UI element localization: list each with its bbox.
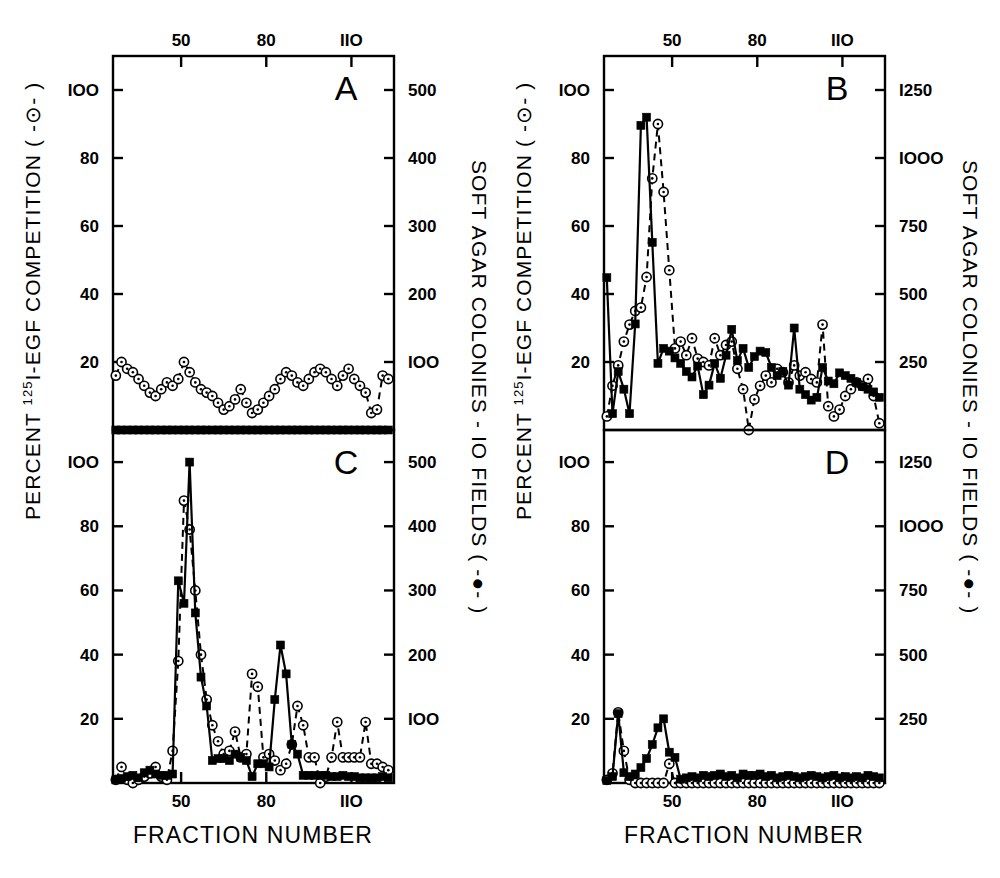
marker-filled-square bbox=[169, 770, 177, 778]
marker-filled-square bbox=[271, 696, 279, 704]
series-line-c-colonies bbox=[116, 462, 389, 780]
marker-filled-square bbox=[609, 410, 617, 418]
marker-open-circle-center bbox=[251, 673, 254, 676]
marker-open-circle-center bbox=[279, 378, 282, 381]
marker-open-circle-center bbox=[120, 361, 123, 364]
marker-open-circle-center bbox=[364, 721, 367, 724]
marker-filled-square bbox=[677, 359, 685, 367]
x-ticklabel-b-80: 80 bbox=[748, 31, 767, 50]
marker-open-circle-center bbox=[668, 269, 671, 272]
marker-open-circle-center bbox=[228, 405, 231, 408]
x-ticklabel-d-50: 50 bbox=[663, 792, 682, 811]
marker-open-circle-center bbox=[753, 398, 756, 401]
marker-open-circle-center bbox=[353, 378, 356, 381]
panel-d: 20406080IOO250500750IOOOI2505080IIOD bbox=[559, 430, 944, 811]
panel-letter-a: A bbox=[335, 69, 358, 107]
marker-open-circle-center bbox=[713, 337, 716, 340]
left-ticklabel-d-60: 60 bbox=[571, 581, 590, 600]
marker-open-circle-center bbox=[330, 756, 333, 759]
series-markers-c-colonies bbox=[112, 458, 392, 784]
marker-open-circle-center bbox=[719, 354, 722, 357]
marker-open-circle-center bbox=[793, 364, 796, 367]
bd-right-axis-title-group: SOFT AGAR COLONIES - IO FIELDS ( -●- ) bbox=[959, 160, 982, 614]
bd-left-axis-title-group: PERCENT 125I-EGF COMPETITION ( -⊙- ) bbox=[511, 82, 535, 520]
marker-open-circle-center bbox=[120, 766, 123, 769]
x-ticklabel-d-110: IIO bbox=[831, 792, 854, 811]
left-axis-title-prefix: PERCENT bbox=[21, 405, 44, 520]
left-ticklabel-d-20: 20 bbox=[571, 710, 590, 729]
left-ticklabel-c-40: 40 bbox=[80, 646, 99, 665]
marker-filled-square bbox=[654, 724, 662, 732]
marker-open-circle-center bbox=[262, 402, 265, 405]
marker-filled-square bbox=[875, 774, 883, 782]
right-ticklabel-c-300: 300 bbox=[408, 581, 436, 600]
marker-open-circle-center bbox=[330, 378, 333, 381]
left-axis-title-group: PERCENT 125I-EGF COMPETITION ( -⊙- ) bbox=[20, 82, 44, 520]
marker-open-circle-center bbox=[302, 385, 305, 388]
marker-filled-square bbox=[745, 363, 753, 371]
marker-open-circle-center bbox=[833, 415, 836, 418]
marker-open-circle-center bbox=[359, 385, 362, 388]
marker-open-circle-center bbox=[217, 402, 220, 405]
marker-open-circle-center bbox=[160, 388, 163, 391]
marker-filled-square bbox=[784, 381, 792, 389]
marker-filled-square bbox=[654, 359, 662, 367]
plot-frame-d bbox=[604, 430, 885, 783]
marker-open-circle-center bbox=[708, 364, 711, 367]
marker-open-circle-center bbox=[325, 371, 328, 374]
marker-open-circle-center bbox=[211, 395, 214, 398]
marker-filled-square bbox=[875, 393, 883, 401]
marker-open-circle-center bbox=[273, 759, 276, 762]
left-axis-title: PERCENT 125I-EGF COMPETITION ( -⊙- ) bbox=[20, 82, 44, 520]
series-markers-b-colonies bbox=[603, 113, 883, 417]
marker-filled-square bbox=[203, 702, 211, 710]
marker-open-circle-center bbox=[662, 782, 665, 785]
marker-open-circle-center bbox=[154, 395, 157, 398]
marker-open-circle-center bbox=[764, 374, 767, 377]
marker-filled-square bbox=[819, 363, 827, 371]
right-ticklabel-a-500: 500 bbox=[408, 81, 436, 100]
marker-open-circle-center bbox=[302, 724, 305, 727]
marker-open-circle-center bbox=[821, 323, 824, 326]
marker-filled-square bbox=[711, 359, 719, 367]
right-ticklabel-b-250: 250 bbox=[899, 353, 927, 372]
marker-open-circle-center bbox=[640, 306, 643, 309]
right-ticklabel-d-1000: IOOO bbox=[899, 517, 943, 536]
x-ticklabel-a-80: 80 bbox=[257, 31, 276, 50]
left-ticklabel-a-20: 20 bbox=[80, 353, 99, 372]
marker-filled-square bbox=[648, 740, 656, 748]
x-ticklabel-b-50: 50 bbox=[663, 31, 682, 50]
x-ticklabel-a-50: 50 bbox=[172, 31, 191, 50]
marker-filled-square bbox=[197, 673, 205, 681]
marker-open-circle-center bbox=[234, 398, 237, 401]
marker-filled-square bbox=[186, 458, 194, 466]
left-ticklabel-a-80: 80 bbox=[80, 149, 99, 168]
left-ticklabel-b-80: 80 bbox=[571, 149, 590, 168]
series-markers-b-competition bbox=[602, 119, 884, 434]
marker-open-circle-center bbox=[143, 385, 146, 388]
left-ticklabel-a-40: 40 bbox=[80, 285, 99, 304]
bd-left-axis-title-prefix: PERCENT bbox=[512, 405, 535, 520]
marker-open-circle-center bbox=[730, 340, 733, 343]
left-ticklabel-d-100: IOO bbox=[559, 453, 590, 472]
panel-letter-b: B bbox=[826, 69, 849, 107]
bd-right-axis-title: SOFT AGAR COLONIES - IO FIELDS ( -●- ) bbox=[959, 160, 982, 614]
marker-open-circle-center bbox=[816, 381, 819, 384]
marker-open-circle-center bbox=[685, 354, 688, 357]
marker-filled-square bbox=[648, 238, 656, 246]
marker-open-circle-center bbox=[674, 347, 677, 350]
right-ticklabel-b-500: 500 bbox=[899, 285, 927, 304]
marker-filled-square bbox=[191, 609, 199, 617]
panels-group: 20406080IOOIOO2003004005005080IIOA204060… bbox=[68, 31, 944, 811]
panel-c: 20406080IOOIOO2003004005005080IIOC bbox=[68, 430, 439, 811]
marker-filled-square bbox=[739, 344, 747, 352]
marker-open-circle-center bbox=[171, 385, 174, 388]
right-ticklabel-b-1000: IOOO bbox=[899, 149, 943, 168]
marker-open-circle-center bbox=[838, 408, 841, 411]
marker-filled-square bbox=[265, 763, 273, 771]
marker-open-circle-center bbox=[651, 177, 654, 180]
marker-open-circle-center bbox=[115, 374, 118, 377]
marker-filled-square bbox=[384, 774, 392, 782]
marker-filled-square bbox=[830, 380, 838, 388]
marker-filled-square bbox=[614, 368, 622, 376]
